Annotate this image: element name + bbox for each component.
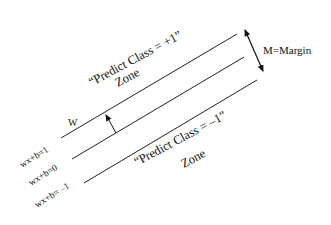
- hyperplane-label-negative: wx+b= –1: [33, 180, 72, 209]
- zone-negative-zone: Zone: [178, 146, 208, 171]
- hyperplane-label-decision: wx+b=0: [27, 162, 60, 187]
- svm-margin-diagram: “Predict Class = +1” Zone “Predict Class…: [0, 0, 331, 225]
- hyperplane-negative: [84, 80, 257, 183]
- hyperplane-label-positive: wx+b=1: [18, 144, 51, 169]
- margin-double-arrow: [245, 30, 263, 71]
- w-label: W: [68, 117, 78, 128]
- margin-label: M=Margin: [263, 44, 312, 56]
- w-vector-arrow: [106, 115, 116, 133]
